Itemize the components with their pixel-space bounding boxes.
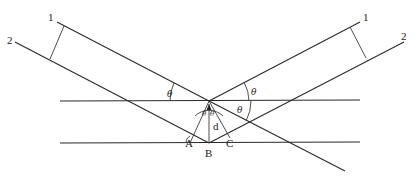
label-d: d — [213, 120, 219, 132]
label-C: C — [226, 137, 233, 149]
reflected-ray-1 — [209, 22, 360, 101]
theta-apex-left: θ — [202, 110, 207, 118]
angle-arc-reflected — [244, 82, 249, 101]
angle-arc-transmitted — [246, 101, 251, 121]
label-incident-2: 2 — [7, 34, 13, 46]
incident-ray-1 — [57, 22, 209, 101]
theta-reflected: θ — [251, 87, 257, 97]
reflected-wavefront — [350, 27, 366, 58]
label-incident-1: 1 — [48, 11, 54, 23]
theta-incident: θ — [167, 89, 173, 99]
reflected-ray-2 — [209, 42, 404, 143]
label-reflected-2: 2 — [401, 30, 407, 42]
label-A: A — [185, 137, 193, 149]
transmitted-ray-1 — [209, 101, 345, 171]
bragg-diffraction-diagram: 1 2 1 2 θ θ θ θ θ d A B C — [0, 0, 416, 179]
incident-wavefront — [50, 26, 64, 59]
label-B: B — [205, 147, 212, 159]
incident-ray-2 — [15, 42, 209, 143]
theta-transmitted: θ — [237, 105, 243, 115]
label-reflected-1: 1 — [363, 11, 369, 23]
